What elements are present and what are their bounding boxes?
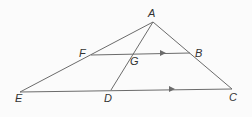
parallel-arrows [160, 50, 175, 92]
label-b: B [195, 47, 202, 59]
segment-fb [91, 53, 190, 55]
label-d: D [104, 92, 112, 104]
segment-ac [153, 22, 232, 89]
parallel-arrow-icon [169, 86, 175, 92]
parallel-arrow-icon [160, 50, 166, 56]
label-c: C [229, 91, 237, 103]
label-a: A [147, 7, 155, 19]
geometry-diagram: A F G B E D C [0, 0, 252, 117]
label-g: G [130, 55, 139, 67]
label-e: E [15, 92, 23, 104]
segment-ec [20, 89, 232, 92]
